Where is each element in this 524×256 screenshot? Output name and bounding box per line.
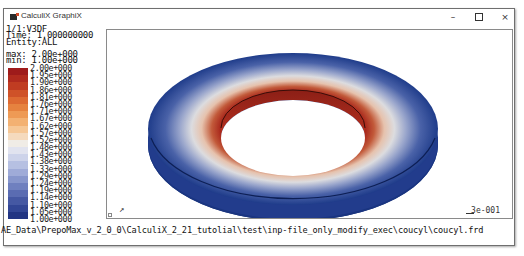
close-button[interactable]: × <box>493 9 517 25</box>
colorbar-segment <box>8 161 28 168</box>
colorbar-segment <box>8 176 28 183</box>
colorbar-segment <box>8 75 28 82</box>
close-icon: × <box>501 12 509 22</box>
annulus-contour-model <box>107 30 513 219</box>
colorbar-segment <box>8 197 28 204</box>
window-title: CalculiX GraphiX <box>21 11 82 20</box>
colorbar-segment <box>8 190 28 197</box>
maximize-button[interactable] <box>467 9 491 25</box>
colorbar-segment <box>8 90 28 97</box>
colorbar-segment <box>8 140 28 147</box>
colorbar-segment <box>8 104 28 111</box>
info-line-entity: Entity:ALL <box>6 39 57 46</box>
app-icon <box>10 14 17 20</box>
3d-viewport[interactable]: ↗︎ 3e-001 <box>106 29 513 219</box>
title-bar[interactable]: CalculiX GraphiX – × <box>4 9 514 25</box>
colorbar-segment <box>8 169 28 176</box>
colorbar-labels: 2.00e+0001.95e+0001.90e+0001.86e+0001.81… <box>30 65 72 223</box>
colorbar-segment <box>8 183 28 190</box>
result-file-path: AE_Data\PrepoMax_v_2_0_0\CalculiX_2_21_t… <box>1 225 483 235</box>
colorbar-segment <box>8 147 28 154</box>
colorbar-segment <box>8 154 28 161</box>
minimize-icon: – <box>451 12 456 22</box>
colorbar-segment <box>8 212 28 219</box>
colorbar-segment <box>8 111 28 118</box>
colorbar-segment <box>8 118 28 125</box>
colorbar-legend <box>8 68 28 219</box>
colorbar-segment <box>8 82 28 89</box>
colorbar-segment <box>8 97 28 104</box>
axis-triad-icon: ↗︎ <box>119 204 124 214</box>
colorbar-label: 1.00e+000 <box>30 216 72 223</box>
maximize-icon <box>475 13 483 21</box>
colorbar-segment <box>8 68 28 75</box>
colorbar-segment <box>8 205 28 212</box>
colorbar-segment <box>8 126 28 133</box>
graphix-window: CalculiX GraphiX – × 1/1:V3DF Time: 1.00… <box>3 8 515 246</box>
scale-label: 3e-001 <box>471 206 500 215</box>
colorbar-segment <box>8 133 28 140</box>
minimize-button[interactable]: – <box>441 9 465 25</box>
viewport-corner-marker <box>108 213 112 217</box>
